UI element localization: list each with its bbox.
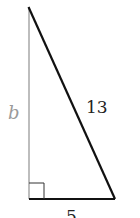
- right-angle-marker: [29, 183, 44, 199]
- label-b: b: [8, 102, 20, 123]
- right-triangle-diagram: b 13 5: [0, 0, 140, 218]
- label-base: 5: [66, 206, 77, 218]
- label-hypotenuse: 13: [86, 97, 108, 117]
